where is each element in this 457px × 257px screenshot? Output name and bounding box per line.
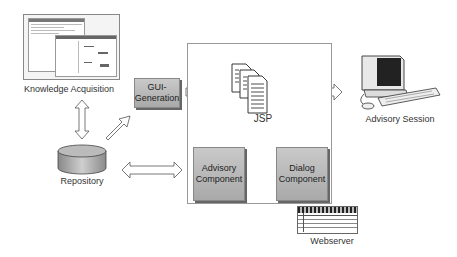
advisory-session-label: Advisory Session (360, 114, 440, 124)
webserver-screenshot (297, 206, 358, 234)
computer-icon (0, 0, 457, 257)
webserver-label: Webserver (307, 236, 357, 246)
